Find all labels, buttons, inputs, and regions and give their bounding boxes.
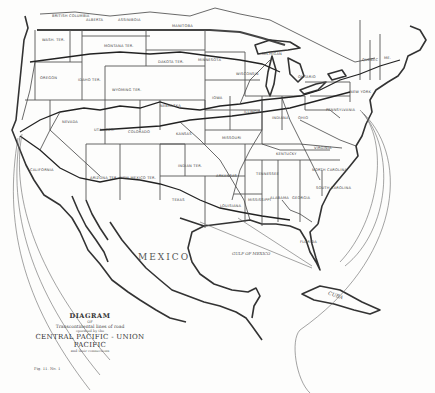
canada-border <box>37 30 285 45</box>
label-indian-territory: INDIAN TER. <box>178 164 202 168</box>
label-maine: ME. <box>384 56 391 60</box>
label-california: CALIFORNIA <box>30 168 54 172</box>
label-north-carolina: NORTH CAROLINA <box>312 168 347 172</box>
label-utah: UTAH TER. <box>94 128 115 132</box>
label-new-mexico: NEW MEXICO TER. <box>120 176 156 180</box>
label-arkansas: ARKANSAS <box>216 174 237 178</box>
label-nevada: NEVADA <box>62 120 78 124</box>
label-colorado: COLORADO <box>128 130 150 134</box>
map-title: DIAGRAM <box>30 312 150 320</box>
label-quebec: QUEBEC <box>362 58 378 62</box>
gulf-coastline <box>180 218 260 318</box>
us-gulf-coastline <box>204 220 320 270</box>
label-minnesota: MINNESOTA <box>198 58 221 62</box>
label-kansas: KANSAS <box>176 132 192 136</box>
label-kentucky: KENTUCKY <box>276 152 297 156</box>
label-new-york: NEW YORK <box>350 90 371 94</box>
label-assiniboia: ASSINIBOIA <box>118 18 141 22</box>
label-michigan: MICHIGAN <box>262 52 282 56</box>
label-nebraska: NEBRASKA <box>160 104 181 108</box>
railroad-diagram-map: BRITISH COLUMBIA ALBERTA ASSINIBOIA MANI… <box>0 0 435 393</box>
kansas-pacific-line <box>100 92 350 130</box>
label-british-columbia: BRITISH COLUMBIA <box>52 14 89 18</box>
label-alberta: ALBERTA <box>86 18 103 22</box>
label-virginia: VIRGINIA <box>314 146 332 150</box>
label-missouri: MISSOURI <box>222 136 241 140</box>
railroad-name: CENTRAL PACIFIC - UNION PACIFIC <box>30 333 150 349</box>
map-title-block: DIAGRAM OF Transcontinental lines of roa… <box>30 312 150 353</box>
label-florida: FLORIDA <box>300 240 317 244</box>
label-texas: TEXAS <box>172 198 185 202</box>
label-ohio: OHIO <box>298 116 308 120</box>
atlantic-coastline <box>318 26 426 224</box>
label-georgia: GEORGIA <box>292 196 310 200</box>
label-oregon: OREGON <box>40 76 57 80</box>
label-pennsylvania: PENNSYLVANIA <box>326 108 355 112</box>
label-tennessee: TENNESSEE <box>256 172 279 176</box>
label-alabama: ALABAMA <box>270 196 289 200</box>
label-dakota: DAKOTA TER. <box>158 60 184 64</box>
plate-number: Fig. 11. No. 1 <box>34 366 60 371</box>
label-louisiana: LOUISIANA <box>220 204 241 208</box>
label-idaho: IDAHO TER. <box>78 78 101 82</box>
label-wyoming: WYOMING TER. <box>112 88 142 92</box>
label-ontario: ONTARIO <box>298 75 316 79</box>
label-gulf-of-mexico: GULF OF MEXICO <box>232 251 270 256</box>
label-mississippi: MISSISSIPPI <box>248 198 271 202</box>
label-washington: WASH. TER. <box>42 38 65 42</box>
label-indiana: INDIANA <box>272 116 289 120</box>
label-mexico: MEXICO. <box>138 252 194 262</box>
railroad-note: and their connections <box>30 349 150 353</box>
label-montana: MONTANA TER. <box>104 44 134 48</box>
label-south-carolina: SOUTH CAROLINA <box>316 186 351 190</box>
label-wisconsin: WISCONSIN <box>236 72 259 76</box>
label-arizona: ARIZONA TER. <box>90 176 118 180</box>
label-iowa: IOWA <box>212 96 223 100</box>
label-illinois: ILLINOIS <box>244 110 261 114</box>
label-manitoba: MANITOBA <box>172 24 193 28</box>
